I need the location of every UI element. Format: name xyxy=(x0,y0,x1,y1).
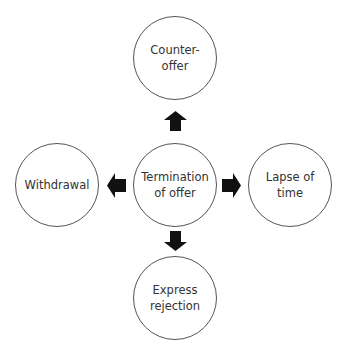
node-label: Withdrawal xyxy=(21,177,94,193)
arrow-right-icon xyxy=(222,173,241,198)
node-label: Express rejection xyxy=(146,282,204,314)
node-label: Termination of offer xyxy=(137,169,212,201)
node-lapse-of-time: Lapse of time xyxy=(248,143,332,227)
node-counter-offer: Counter- offer xyxy=(133,16,217,100)
termination-of-offer-diagram: Counter- offer Withdrawal Termination of… xyxy=(0,0,347,362)
arrow-left-icon xyxy=(107,173,126,198)
node-express-rejection: Express rejection xyxy=(133,256,217,340)
arrow-up-icon xyxy=(164,111,187,131)
arrow-down-icon xyxy=(164,231,187,251)
node-withdrawal: Withdrawal xyxy=(15,143,99,227)
node-label: Counter- offer xyxy=(146,42,203,74)
node-termination-of-offer: Termination of offer xyxy=(133,143,217,227)
node-label: Lapse of time xyxy=(262,169,319,201)
